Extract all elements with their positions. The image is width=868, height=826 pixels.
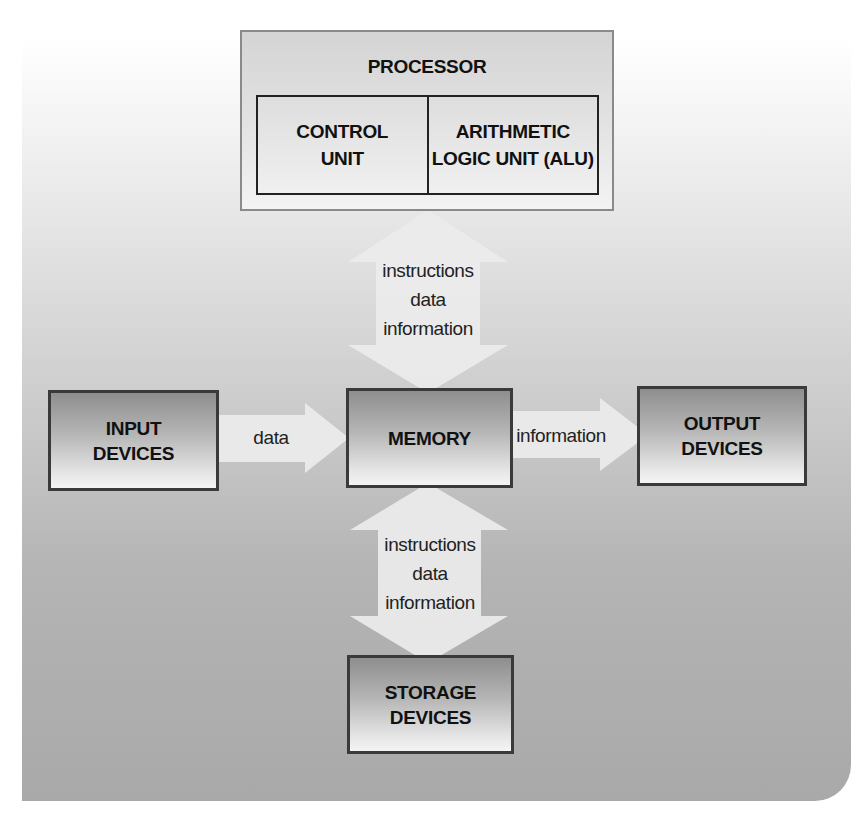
alu-box: ARITHMETIC LOGIC UNIT (ALU) <box>427 97 598 193</box>
input-memory-arrow-label: data <box>236 423 306 452</box>
storage-devices-line2: DEVICES <box>390 705 471 730</box>
output-devices-line1: OUTPUT <box>684 411 760 436</box>
alu-line1: ARITHMETIC <box>456 118 570 145</box>
memory-box: MEMORY <box>346 388 513 488</box>
processor-box: PROCESSOR CONTROL UNIT ARITHMETIC LOGIC … <box>240 30 614 211</box>
storage-devices-line1: STORAGE <box>385 680 477 705</box>
arrow-label-line: data <box>370 559 490 588</box>
arrow-label-line: information <box>370 588 490 617</box>
memory-label: MEMORY <box>388 426 471 451</box>
storage-devices-box: STORAGE DEVICES <box>347 655 514 754</box>
input-devices-line2: DEVICES <box>93 441 174 466</box>
arrow-label-line: information <box>368 314 488 343</box>
arrow-label-line: instructions <box>370 530 490 559</box>
processor-memory-arrow-label: instructions data information <box>368 256 488 343</box>
input-devices-line1: INPUT <box>106 416 162 441</box>
arrow-label-line: instructions <box>368 256 488 285</box>
processor-title: PROCESSOR <box>242 56 612 78</box>
output-devices-line2: DEVICES <box>681 436 762 461</box>
output-devices-box: OUTPUT DEVICES <box>637 386 807 486</box>
alu-line2: LOGIC UNIT (ALU) <box>432 145 594 172</box>
memory-output-arrow-label: information <box>506 421 616 450</box>
control-unit-box: CONTROL UNIT <box>258 97 427 193</box>
control-unit-line2: UNIT <box>321 145 364 172</box>
memory-storage-arrow-label: instructions data information <box>370 530 490 617</box>
processor-components: CONTROL UNIT ARITHMETIC LOGIC UNIT (ALU) <box>256 95 599 195</box>
input-devices-box: INPUT DEVICES <box>48 390 219 491</box>
arrow-label-line: data <box>368 285 488 314</box>
control-unit-line1: CONTROL <box>296 118 388 145</box>
